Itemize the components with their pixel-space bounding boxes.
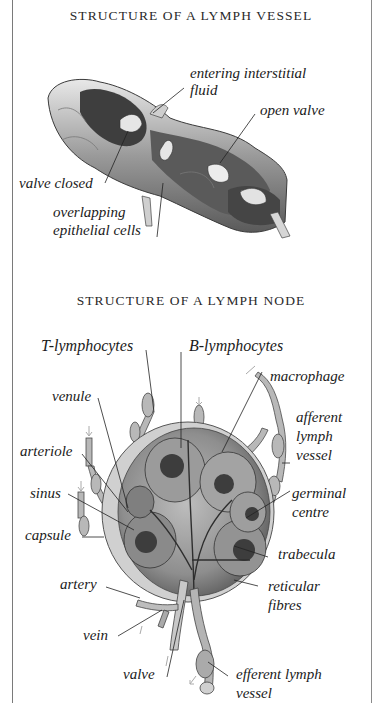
label-arteriole: arteriole xyxy=(20,443,73,460)
label-reticular: reticular xyxy=(268,578,320,595)
label-germinal: germinal xyxy=(292,485,346,502)
label-fibres: fibres xyxy=(268,597,302,614)
label-vessel: vessel xyxy=(296,447,332,464)
label-capsule: capsule xyxy=(25,527,71,544)
label-afferent: afferent xyxy=(296,409,342,426)
label-centre: centre xyxy=(292,504,329,521)
label-artery: artery xyxy=(60,576,97,593)
label-t-lymphocytes: T-lymphocytes xyxy=(41,337,133,354)
label-efferent-vessel: vessel xyxy=(236,685,272,702)
label-valve: valve xyxy=(123,666,155,683)
label-b-lymphocytes: B-lymphocytes xyxy=(189,337,283,354)
label-venule: venule xyxy=(52,388,91,405)
label-macrophage: macrophage xyxy=(270,368,344,385)
label-trabecula: trabecula xyxy=(278,546,336,563)
label-efferent-lymph: efferent lymph xyxy=(236,666,322,683)
label-lymph: lymph xyxy=(296,428,333,445)
label-sinus: sinus xyxy=(30,485,61,502)
label-vein: vein xyxy=(83,627,108,644)
